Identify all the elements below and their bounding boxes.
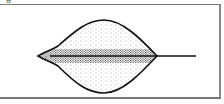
leaf-diagram xyxy=(0,0,224,104)
